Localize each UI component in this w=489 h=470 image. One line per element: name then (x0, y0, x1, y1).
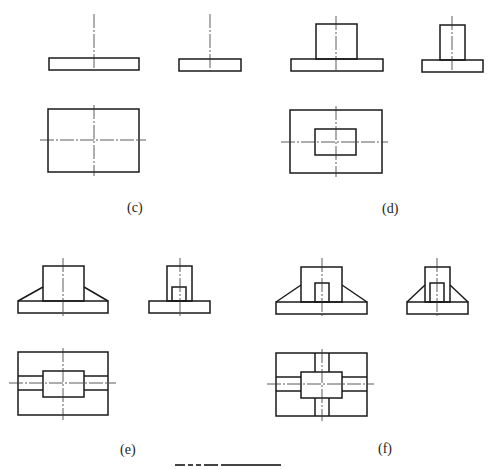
panel-f-label: (f) (378, 441, 392, 457)
panel-c-side-view (179, 14, 241, 71)
panel-e-top-view (9, 348, 116, 420)
panel-d-label: (d) (382, 201, 398, 217)
panel-d-top-view (281, 106, 388, 177)
panel-c-label: (c) (127, 200, 143, 216)
panel-e-label: (e) (120, 442, 136, 458)
panel-d (281, 16, 483, 177)
panel-e (9, 258, 210, 420)
panel-c-top-view (40, 105, 146, 176)
panel-d-front-view (291, 16, 383, 72)
panel-e-side-view (149, 258, 210, 316)
panel-f-side-view (407, 258, 468, 318)
panel-c-front-view (49, 14, 139, 70)
panel-f-top-view (267, 349, 374, 421)
panel-e-front-view (18, 258, 108, 316)
panel-f (267, 258, 468, 421)
three-view-drawings (0, 0, 489, 470)
panel-c (40, 14, 241, 176)
panel-f-front-view (276, 258, 367, 318)
figure-caption-cutoff (175, 464, 315, 470)
panel-d-side-view (422, 16, 483, 72)
